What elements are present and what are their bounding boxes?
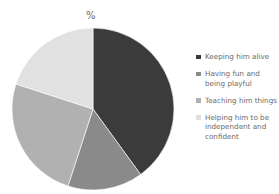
- legend-item-teaching: Teaching him things: [195, 96, 279, 106]
- legend-swatch-icon: [196, 55, 201, 60]
- legend-item-helping-independent: Helping him to be independent and confid…: [195, 113, 279, 142]
- legend: Keeping him alive Having fun and being p…: [195, 52, 279, 149]
- legend-item-keeping-alive: Keeping him alive: [195, 52, 279, 62]
- pie-slices: [12, 28, 174, 190]
- legend-swatch-icon: [196, 72, 201, 77]
- legend-label: Having fun and being playful: [205, 69, 260, 88]
- legend-label: Keeping him alive: [205, 52, 269, 61]
- legend-label: Helping him to be independent and confid…: [205, 113, 269, 141]
- legend-label: Teaching him things: [205, 96, 277, 105]
- legend-swatch-icon: [196, 115, 201, 120]
- legend-swatch-icon: [196, 98, 201, 103]
- legend-item-having-fun: Having fun and being playful: [195, 69, 279, 88]
